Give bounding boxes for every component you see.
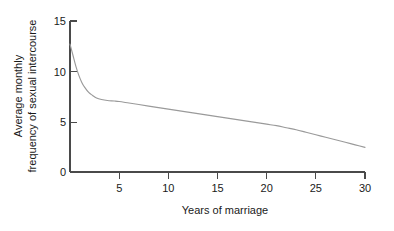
x-tick-label-5: 5 xyxy=(116,182,122,194)
x-tick-label-25: 25 xyxy=(310,182,322,194)
y-tick-label-5: 5 xyxy=(60,116,66,128)
chart-figure: 15 10 5 0 5 10 15 20 25 30 Years of marr… xyxy=(0,0,394,231)
x-tick-label-30: 30 xyxy=(359,182,371,194)
y-tick-label-0: 0 xyxy=(60,166,66,178)
x-axis-title: Years of marriage xyxy=(182,204,268,216)
y-tick-marks xyxy=(70,21,77,172)
x-tick-label-10: 10 xyxy=(162,182,174,194)
x-tick-label-15: 15 xyxy=(211,182,223,194)
series-line-average-monthly-frequency xyxy=(70,44,365,147)
y-tick-label-10: 10 xyxy=(54,66,66,78)
x-tick-label-20: 20 xyxy=(261,182,273,194)
x-tick-marks xyxy=(119,172,365,179)
y-axis-title-line2: frequency of sexual intercourse xyxy=(26,20,38,173)
y-axis-title-line1: Average monthly xyxy=(12,54,24,137)
y-tick-label-15: 15 xyxy=(54,15,66,27)
